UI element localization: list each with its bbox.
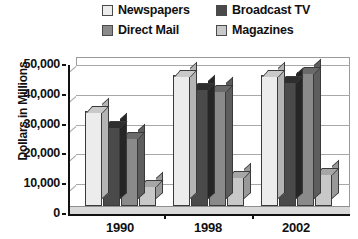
legend-label-broadcast-tv: Broadcast TV: [232, 4, 310, 17]
plot-area: 010,00020,00030,00040,00050,000 19901998…: [68, 57, 350, 214]
legend-swatch-newspapers: [102, 5, 113, 16]
legend-item-magazines: Magazines: [216, 24, 293, 37]
y-axis-tick-mark: [62, 64, 66, 66]
bars-layer: [68, 57, 350, 214]
y-axis-tick-label: 10,000: [24, 176, 60, 190]
bar-side-face: [278, 62, 285, 199]
bar-group: [173, 57, 244, 206]
legend-label-magazines: Magazines: [232, 24, 293, 37]
legend-item-broadcast-tv: Broadcast TV: [216, 4, 310, 17]
bar-side-face: [296, 68, 303, 199]
bar-side-face: [226, 76, 233, 199]
bar: [173, 75, 190, 206]
legend-item-newspapers: Newspapers: [102, 4, 190, 17]
bar-side-face: [190, 62, 197, 199]
bar-side-face: [332, 160, 339, 199]
y-axis-tick-label: 50,000: [24, 57, 60, 71]
bar-side-face: [244, 163, 251, 199]
bar-side-face: [208, 75, 215, 199]
x-axis-category-label: 1990: [80, 220, 160, 235]
bar-group: [261, 57, 332, 206]
bar: [261, 75, 278, 206]
bar-chart: Newspapers Broadcast TV Direct Mail Maga…: [0, 0, 358, 239]
x-axis-category-label: 2002: [256, 220, 336, 235]
x-axis-line: [68, 214, 350, 216]
y-axis-tick-mark: [62, 183, 66, 185]
bar-side-face: [314, 59, 321, 199]
legend-label-newspapers: Newspapers: [118, 4, 190, 17]
y-axis-tick-mark: [62, 124, 66, 126]
legend-label-direct-mail: Direct Mail: [118, 24, 179, 37]
legend-swatch-magazines: [216, 25, 227, 36]
y-axis-tick-label: 20,000: [24, 146, 60, 160]
x-axis-tick-mark: [164, 214, 166, 219]
y-axis-tick-label: 30,000: [24, 117, 60, 131]
legend-item-direct-mail: Direct Mail: [102, 24, 179, 37]
bar-group: [85, 57, 156, 206]
x-axis-tick-mark: [252, 214, 254, 219]
y-axis-line: [68, 65, 70, 214]
bar: [85, 111, 102, 206]
legend-swatch-broadcast-tv: [216, 5, 227, 16]
x-axis-category-label: 1998: [168, 220, 248, 235]
y-axis-tick-mark: [62, 153, 66, 155]
chart-legend: Newspapers Broadcast TV Direct Mail Maga…: [96, 4, 346, 44]
y-axis-tick-label: 40,000: [24, 87, 60, 101]
y-axis-tick-label: 0: [53, 206, 60, 220]
legend-swatch-direct-mail: [102, 25, 113, 36]
y-axis-tick-mark: [62, 94, 66, 96]
y-axis-tick-mark: [62, 213, 66, 215]
